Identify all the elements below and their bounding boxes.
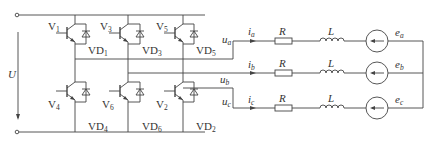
svg-text:L: L (327, 25, 334, 37)
voltage-label-ub: ub (220, 73, 230, 87)
current-arrow-a-icon (250, 39, 256, 43)
positive-terminal (15, 13, 19, 17)
switch-label-v3: V3 (100, 20, 112, 34)
switch-label-v6: V6 (102, 98, 114, 112)
diode-label-vd6: VD6 (142, 120, 162, 134)
emf-label-eb: eb (395, 58, 404, 72)
diode-label-vd2: VD2 (196, 120, 216, 134)
inductor-icon (320, 105, 344, 108)
voltage-label-ua: ua (222, 33, 232, 47)
diode-label-vd1: VD1 (88, 44, 108, 58)
phase-labels: ua ia ub ib uc ic (220, 25, 255, 109)
svg-text:L: L (327, 57, 334, 69)
svg-text:R: R (278, 92, 286, 104)
diode-label-vd5: VD5 (196, 44, 216, 58)
resistor-icon (275, 105, 292, 111)
emf-label-ea: ea (395, 26, 404, 40)
phase-c-load: R L ec (275, 92, 423, 119)
phase-b-load: R L eb (275, 57, 423, 84)
inverter-circuit: U (0, 0, 433, 143)
voltage-label-uc: uc (222, 95, 232, 109)
inductor-icon (320, 70, 344, 73)
switch-label-v1: V1 (48, 20, 60, 34)
current-label-ia: ia (248, 25, 255, 39)
svg-text:R: R (278, 25, 286, 37)
switch-label-v2: V2 (156, 98, 168, 112)
switch-label-v4: V4 (48, 98, 60, 112)
emf-label-ec: ec (395, 93, 404, 107)
resistor-icon (275, 38, 292, 44)
svg-text:L: L (327, 92, 334, 104)
svg-text:R: R (278, 57, 286, 69)
voltage-arrow-icon (16, 114, 20, 120)
switch-label-v5: V5 (156, 20, 168, 34)
phase-a-load: R L ea (275, 25, 423, 52)
current-label-ic: ic (248, 93, 255, 107)
dc-voltage-label: U (8, 68, 17, 80)
resistor-icon (275, 70, 292, 76)
negative-terminal (15, 130, 19, 134)
diode-label-vd4: VD4 (88, 120, 108, 134)
inductor-icon (320, 38, 344, 41)
current-label-ib: ib (248, 58, 255, 72)
diode-label-vd3: VD3 (142, 44, 162, 58)
inverter-legs (56, 15, 198, 132)
